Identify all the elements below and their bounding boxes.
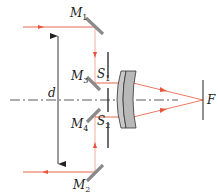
mirror-M1 [86, 18, 103, 34]
ray-arrow-icon [38, 25, 44, 29]
lens-rear-element [123, 71, 136, 128]
ray-lens-to-F-lower [133, 100, 203, 117]
optics-diagram: M1 M3 M4 M2 S1 S2 d F [0, 0, 218, 196]
label-d: d [48, 86, 56, 100]
label-F: F [206, 93, 216, 107]
label-M3: M3 [70, 69, 88, 85]
ray-arrow-icon [93, 52, 97, 58]
label-M4: M4 [70, 117, 88, 133]
label-S2: S2 [97, 114, 110, 130]
ray-arrow-icon [93, 142, 97, 148]
label-M1: M1 [69, 6, 87, 22]
ray-arrow-icon [42, 170, 48, 174]
ray-lens-to-F-upper [133, 83, 203, 100]
